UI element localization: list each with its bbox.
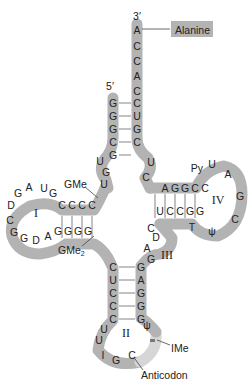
gme2-label: GMe2 <box>58 244 85 257</box>
svg-text:G: G <box>10 226 18 238</box>
svg-text:U: U <box>133 110 141 122</box>
svg-text:G: G <box>74 225 82 237</box>
svg-text:G: G <box>171 182 179 194</box>
t-arm-bottom-strand: U C C G G <box>156 205 204 217</box>
arm-label-iv: IV <box>212 193 225 207</box>
svg-text:G: G <box>14 187 22 199</box>
anticodon-pairs <box>119 267 135 319</box>
anticodon-left-strand: C U C C C <box>109 261 117 325</box>
svg-text:G: G <box>133 123 141 135</box>
svg-text:G: G <box>109 97 117 109</box>
svg-text:G: G <box>109 149 117 161</box>
d-arm-bottom-strand: G G G G <box>54 225 92 237</box>
svg-text:C: C <box>147 222 155 234</box>
acceptor-3prime-strand: A C C A C C U G C <box>133 24 141 148</box>
svg-text:C: C <box>191 182 199 194</box>
svg-text:A: A <box>137 274 144 286</box>
svg-text:C: C <box>231 213 239 225</box>
svg-text:D: D <box>32 234 40 246</box>
svg-text:ψ: ψ <box>208 225 216 237</box>
ime-label: IMe <box>171 342 189 354</box>
svg-text:C: C <box>166 205 174 217</box>
svg-text:A: A <box>161 182 168 194</box>
svg-text:U: U <box>100 178 108 190</box>
svg-text:G: G <box>54 225 62 237</box>
svg-text:U: U <box>95 334 103 346</box>
svg-text:U: U <box>40 182 48 194</box>
svg-text:U: U <box>156 205 164 217</box>
svg-text:G: G <box>137 300 145 312</box>
arm-label-iii: III <box>161 248 173 262</box>
anticodon-right-strand: G A G G G <box>137 261 145 325</box>
svg-text:C: C <box>176 205 184 217</box>
svg-text:C: C <box>133 40 141 52</box>
svg-text:A: A <box>25 181 32 193</box>
svg-text:U: U <box>147 156 155 168</box>
svg-text:U: U <box>208 158 216 170</box>
svg-text:C: C <box>58 199 66 211</box>
svg-text:G: G <box>102 166 110 178</box>
three-prime-label: 3′ <box>133 10 141 22</box>
svg-text:G: G <box>186 205 194 217</box>
svg-text:G: G <box>109 110 117 122</box>
svg-text:C: C <box>68 199 76 211</box>
svg-text:U: U <box>109 274 117 286</box>
svg-text:C: C <box>109 287 117 299</box>
svg-text:C: C <box>6 214 14 226</box>
svg-text:G: G <box>112 354 120 366</box>
svg-text:C: C <box>133 136 141 148</box>
svg-text:G: G <box>49 187 57 199</box>
svg-text:C: C <box>78 199 86 211</box>
svg-text:A: A <box>44 230 51 242</box>
five-prime-label: 5′ <box>106 80 114 92</box>
svg-text:G: G <box>84 225 92 237</box>
svg-text:C: C <box>133 55 141 67</box>
svg-text:A: A <box>133 70 140 82</box>
svg-text:C: C <box>109 261 117 273</box>
gme-label: GMe <box>64 178 87 190</box>
svg-text:G: G <box>181 182 189 194</box>
trna-diagram: 3′ 5′ A C C A C C U G C G G G C G Alanin… <box>0 0 252 382</box>
svg-text:D: D <box>7 199 15 211</box>
arm-label-i: I <box>34 206 38 220</box>
svg-text:A: A <box>133 24 140 36</box>
anticodon-arm-band <box>98 258 140 364</box>
svg-text:C: C <box>133 85 141 97</box>
svg-text:G: G <box>64 225 72 237</box>
acceptor-pairs <box>119 103 131 155</box>
svg-text:C: C <box>109 136 117 148</box>
acceptor-5prime-strand: G G G C G <box>109 97 117 161</box>
svg-text:ψ: ψ <box>143 319 151 331</box>
svg-text:C: C <box>133 97 141 109</box>
svg-text:T: T <box>189 221 196 233</box>
svg-text:C: C <box>109 313 117 325</box>
svg-text:C: C <box>201 182 209 194</box>
svg-text:C: C <box>142 171 150 183</box>
svg-text:I: I <box>102 349 105 361</box>
arm-label-ii: II <box>122 326 130 340</box>
svg-text:C: C <box>109 300 117 312</box>
svg-text:G: G <box>236 190 244 202</box>
svg-text:C: C <box>88 199 96 211</box>
svg-text:G: G <box>137 261 145 273</box>
svg-text:G: G <box>196 205 204 217</box>
svg-text:G: G <box>147 253 155 265</box>
svg-text:G: G <box>137 287 145 299</box>
svg-text:A: A <box>224 168 231 180</box>
svg-text:Py: Py <box>191 162 204 174</box>
anticodon-label: Anticodon <box>141 369 188 381</box>
ime-base-marker <box>150 339 155 342</box>
gme-leader <box>85 187 98 198</box>
svg-text:G: G <box>20 232 28 244</box>
svg-text:G: G <box>109 123 117 135</box>
alanine-label: Alanine <box>175 24 210 36</box>
